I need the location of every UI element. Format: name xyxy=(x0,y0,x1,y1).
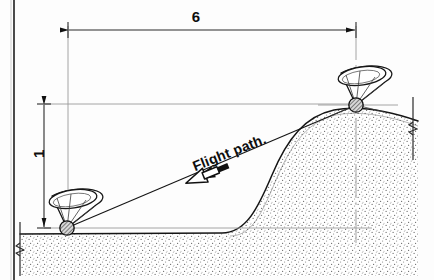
vertical-dimension-label: 1 xyxy=(30,150,47,158)
dimension-horizontal xyxy=(68,22,356,38)
flight-path-diagram xyxy=(0,0,434,280)
horizontal-dimension-label: 6 xyxy=(192,8,200,25)
station-marker-left xyxy=(60,221,74,235)
dimension-vertical xyxy=(37,104,51,228)
figure-canvas: 6 1 Flight path. xyxy=(0,0,434,280)
station-marker-right xyxy=(349,98,363,112)
page-border xyxy=(11,0,14,280)
ground-station-right[interactable] xyxy=(330,64,392,116)
